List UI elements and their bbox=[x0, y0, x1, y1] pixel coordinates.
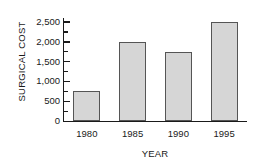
plot-area: 1980198519901995 bbox=[63, 18, 247, 122]
x-tick-label: 1980 bbox=[63, 128, 111, 139]
x-axis-title: YEAR bbox=[63, 148, 247, 159]
bar-series bbox=[64, 18, 247, 121]
y-tick-label: 500 bbox=[20, 96, 60, 106]
y-tick-label: 2,500 bbox=[20, 17, 60, 27]
x-tick-label: 1995 bbox=[200, 128, 248, 139]
x-tick-label: 1990 bbox=[154, 128, 202, 139]
bar bbox=[165, 52, 192, 121]
x-axis-line bbox=[63, 121, 247, 122]
y-tick-label: 2,000 bbox=[20, 37, 60, 47]
y-tick-label: 0 bbox=[20, 116, 60, 126]
x-tick-label: 1985 bbox=[109, 128, 157, 139]
bar bbox=[119, 42, 146, 121]
bar bbox=[73, 91, 100, 121]
y-tick-label: 1,500 bbox=[20, 57, 60, 67]
bar-chart: SURGICAL COST 05001,0001,5002,0002,500 1… bbox=[0, 0, 260, 166]
y-tick-label: 1,000 bbox=[20, 76, 60, 86]
bar bbox=[211, 22, 238, 121]
y-axis-tick-labels: 05001,0001,5002,0002,500 bbox=[18, 0, 60, 166]
